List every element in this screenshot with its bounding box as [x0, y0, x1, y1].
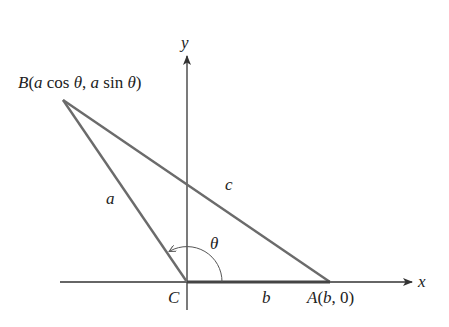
- vertex-c-label: C: [168, 289, 179, 306]
- y-axis-label: y: [181, 34, 189, 51]
- angle-theta-label: θ: [210, 235, 218, 252]
- side-b-label: b: [262, 289, 271, 306]
- side-a-label: a: [106, 190, 115, 207]
- side-c-label: c: [225, 176, 233, 193]
- diagram-canvas: [0, 0, 449, 327]
- side-c: [63, 100, 330, 282]
- vertex-b-label: B(a cos θ, a sin θ): [18, 74, 141, 91]
- x-axis-label: x: [418, 273, 426, 290]
- vertex-a-label: A(b, 0): [307, 289, 354, 306]
- side-a: [63, 100, 187, 282]
